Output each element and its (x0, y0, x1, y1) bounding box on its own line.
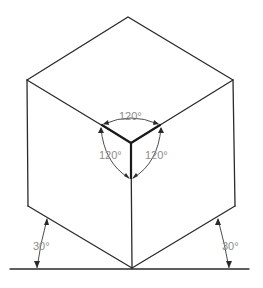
arrowhead-icon (103, 120, 109, 125)
cube-right-bottom-edge (132, 206, 235, 268)
arrowhead-icon (226, 261, 232, 268)
arrowhead-icon (44, 218, 49, 225)
cube-left-vertical-edge (27, 80, 28, 206)
arrowhead-icon (132, 173, 138, 179)
angle-label-base-left: 30° (33, 240, 50, 252)
isometric-axis-right (131, 125, 160, 143)
isometric-axis-left (102, 125, 131, 143)
arrowhead-icon (34, 261, 40, 268)
cube-top-face-outer (27, 17, 233, 80)
arrowhead-icon (98, 127, 104, 133)
angle-label-top: 120° (119, 110, 142, 122)
cube-right-vertical-edge (233, 80, 235, 206)
arrowhead-icon (215, 218, 221, 225)
angle-label-left: 120° (99, 149, 122, 161)
arrowhead-icon (124, 173, 130, 179)
angle-label-base-right: 30° (222, 240, 239, 252)
arrowhead-icon (158, 127, 164, 133)
isometric-cube-diagram: 120° 120° 120° 30° 30° (0, 0, 263, 288)
arrowhead-icon (153, 120, 159, 125)
angle-label-right: 120° (145, 149, 168, 161)
cube-left-bottom-edge (28, 206, 132, 268)
